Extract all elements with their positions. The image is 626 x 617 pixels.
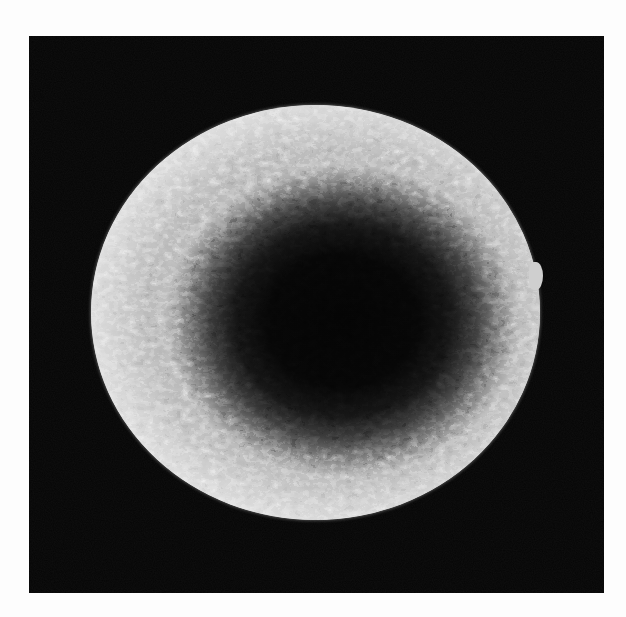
figure-page xyxy=(0,0,626,617)
micrograph-panel xyxy=(29,36,604,593)
particle-sphere xyxy=(91,105,540,520)
sphere-bright-rim xyxy=(91,105,540,520)
sphere-edge-protrusion xyxy=(529,262,543,290)
